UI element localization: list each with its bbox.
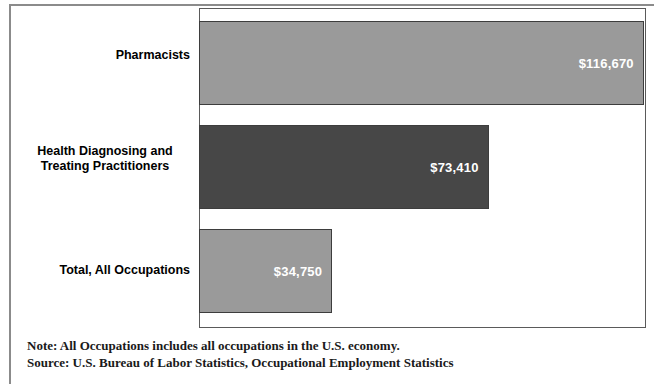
source-text: Source: U.S. Bureau of Labor Statistics,… bbox=[27, 354, 454, 371]
figure-footnotes: Note: All Occupations includes all occup… bbox=[27, 337, 454, 371]
bar-total-all-occupations: $34,750 bbox=[199, 229, 332, 313]
bar-pharmacists: $116,670 bbox=[199, 21, 644, 105]
bar-value-label: $34,750 bbox=[274, 264, 322, 279]
bar-value-label: $116,670 bbox=[579, 56, 634, 71]
category-label-total-all-occupations: Total, All Occupations bbox=[20, 263, 190, 278]
bar-row: $73,410 bbox=[199, 125, 646, 209]
bar-health-diagnosing-treating-practitioners: $73,410 bbox=[199, 125, 489, 209]
bar-chart-figure: $116,670 $73,410 $34,750 Pharmacists Hea… bbox=[0, 0, 656, 385]
category-label-pharmacists: Pharmacists bbox=[20, 48, 190, 63]
note-text: Note: All Occupations includes all occup… bbox=[27, 337, 454, 354]
bar-row: $116,670 bbox=[199, 21, 646, 105]
plot-area: $116,670 $73,410 $34,750 bbox=[199, 8, 646, 328]
bar-value-label: $73,410 bbox=[430, 160, 478, 175]
category-label-health-diagnosing-treating-practitioners: Health Diagnosing and Treating Practitio… bbox=[20, 144, 190, 174]
bar-row: $34,750 bbox=[199, 229, 646, 313]
